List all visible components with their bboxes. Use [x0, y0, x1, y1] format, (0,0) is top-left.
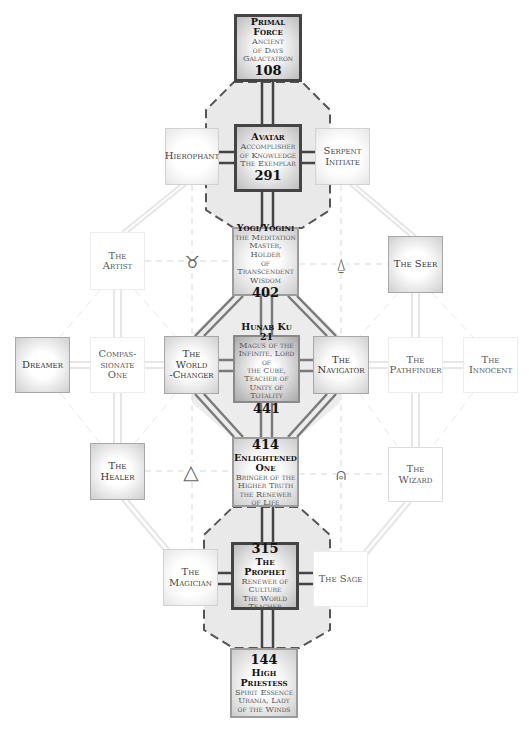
taurus-symbol-icon: ♉ [184, 254, 199, 271]
healer-line1: The [109, 461, 127, 472]
node-innocent: The Innocent [463, 337, 518, 393]
prophet-title: The Prophet [234, 557, 296, 577]
healer-line2: Healer [101, 472, 135, 483]
node-primal-force: Primal Force Ancient of Days Galactatron… [234, 14, 302, 82]
yogi-sub4: Wisdom [250, 276, 281, 285]
node-sage: The Sage [313, 551, 368, 607]
node-dreamer: Dreamer [15, 337, 70, 393]
hunab-ku-title: Hunab Ku 21 [235, 322, 298, 342]
wizard-line2: Wizard [399, 475, 433, 486]
triangle-drop-symbol-icon: ⍙ [336, 256, 346, 273]
compassionate-line3: One [108, 370, 127, 381]
node-enlightened-one: 414 Enlightened One Bringer of the Highe… [232, 437, 299, 507]
prophet-number: 315 [251, 542, 278, 556]
tree-of-life-diagram: Primal Force Ancient of Days Galactatron… [0, 0, 529, 736]
node-yogi-yogini: Yogi/Yogini the Meditation Master, Holde… [232, 227, 299, 296]
world-changer-line3: -Changer [169, 370, 213, 381]
magician-line1: The [182, 567, 200, 578]
node-healer: The Healer [90, 443, 145, 500]
node-world-changer: The World -Changer [164, 336, 219, 394]
primal-force-number: 108 [254, 64, 281, 78]
node-high-priestess: 144 High Priestess Spirit Essence Urania… [230, 648, 298, 718]
node-magician: The Magician [163, 549, 218, 606]
enlightened-number: 414 [252, 438, 279, 452]
node-hierophant: Hierophant [165, 128, 219, 185]
enlightened-sub4: of Life [251, 498, 279, 507]
node-artist: The Artist [90, 232, 145, 290]
dreamer-label: Dreamer [22, 360, 63, 371]
artist-line2: Artist [103, 261, 132, 272]
node-pathfinder: The Pathfinder [388, 337, 443, 393]
primal-force-title: Primal Force [237, 17, 299, 37]
innocent-line2: Innocent [469, 365, 512, 376]
hunab-ku-sub5: Unity of Totality [235, 384, 298, 401]
hunab-ku-number: 441 [253, 402, 280, 416]
hunab-ku-sub2: Infinite, Lord of [235, 350, 298, 367]
navigator-line2: Navigator [317, 365, 364, 376]
node-seer: The Seer [388, 236, 443, 293]
node-prophet: 315 The Prophet Renewer of Culture The W… [231, 542, 299, 610]
yogi-number: 402 [252, 286, 279, 300]
node-compassionate-one: Compas- sionate One [90, 337, 145, 393]
node-wizard: The Wizard [388, 447, 443, 502]
primal-force-sub3: Galactatron [243, 54, 293, 63]
magician-line2: Magician [169, 578, 212, 589]
node-serpent-initiate: Serpent Initiate [315, 128, 370, 185]
pathfinder-line2: Pathfinder [390, 365, 442, 376]
node-navigator: The Navigator [313, 336, 369, 394]
serpent-initiate-line1: Serpent [324, 146, 362, 157]
triangle-circle-symbol-icon: ⍝ [336, 466, 346, 483]
serpent-initiate-line2: Initiate [325, 157, 360, 168]
prophet-sub4: Teacher [249, 602, 282, 611]
node-avatar: Avatar Accomplisher of Knowledge The Exe… [234, 124, 302, 192]
avatar-number: 291 [254, 169, 281, 183]
node-hunab-ku: Hunab Ku 21 Magus of the Infinite, Lord … [233, 335, 300, 403]
seer-label: The Seer [394, 259, 437, 270]
avatar-sub3: The Exemplar [240, 159, 295, 168]
high-priestess-sub3: of the Winds [238, 705, 291, 714]
hierophant-label: Hierophant [165, 151, 219, 162]
yogi-sub2: Master, Holder [234, 241, 297, 258]
sage-label: The Sage [319, 574, 363, 585]
yogi-sub3: of Transcendent [234, 259, 297, 276]
wizard-line1: The [407, 464, 425, 475]
triangle-symbol-icon: △ [183, 462, 198, 482]
high-priestess-number: 144 [250, 653, 277, 667]
